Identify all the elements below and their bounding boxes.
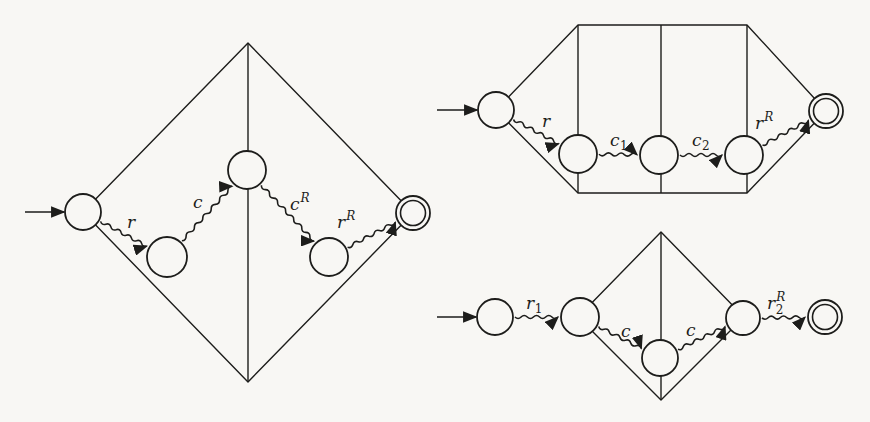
transition-label-p1-p2: c1 [610,130,628,153]
state-s3-state [726,301,760,335]
transition-arrow-q1-q2 [182,186,232,241]
transition-arrow-q0-q1 [101,221,147,246]
transition-arrow-q3-q4 [348,222,396,247]
state-q0-start [65,194,101,230]
state-p2-state [640,136,678,174]
transition-label-q3-q4: rR [337,209,355,232]
state-q2-state [228,151,266,189]
transition-arrow-s3-s4 [762,316,805,319]
transition-label-p3-p4: rR [755,110,773,133]
state-p1-state [559,135,597,173]
state-p0-start [478,92,514,128]
transition-label-p2-p3: c2 [692,130,710,153]
transition-label-s0-s1: r1 [526,293,542,316]
state-s0-start [477,299,513,335]
transition-label-q1-q2: c [193,192,203,212]
state-s1-state [561,298,599,336]
bottom-right-diamond-automaton: r1ccrR2 [437,232,842,400]
transition-label-s3-s4: rR2 [767,290,785,317]
transition-arrow-p0-p1 [514,120,559,144]
transition-arrow-p1-p2 [599,153,637,156]
transition-arrow-p3-p4 [763,121,809,146]
transition-label-q0-q1: r [127,212,136,232]
scanned-figure-page: rccRrRrc1c2rRr1ccrR2 [0,0,870,422]
transition-label-s2-s3: c [686,320,696,340]
state-q1-state [147,237,187,277]
transition-arrow-s1-s2 [599,327,642,349]
transition-label-q2-q3: cR [290,191,310,214]
left-diamond-automaton: rccRrR [25,43,430,382]
top-right-hexagon-automaton: rc1c2rR [437,25,843,193]
transition-arrow-p2-p3 [680,154,722,157]
automata-figure-canvas: rccRrRrc1c2rRr1ccrR2 [0,0,870,422]
state-s2-state [642,340,678,376]
transition-label-s1-s2: c [621,321,631,341]
state-q3-state [310,238,348,276]
transition-label-p0-p1: r [542,111,551,131]
state-p3-state [725,136,763,174]
